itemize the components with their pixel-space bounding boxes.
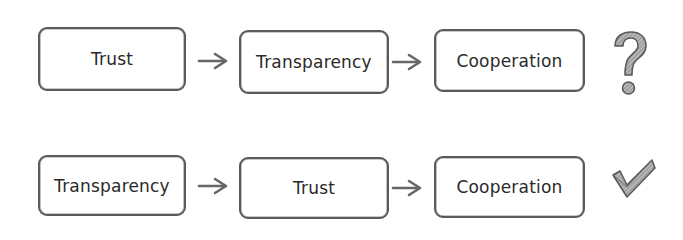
- node-label: Trust: [91, 49, 133, 69]
- node-label: Cooperation: [456, 177, 562, 197]
- node-label: Transparency: [256, 52, 372, 72]
- node-cooperation: Cooperation: [434, 29, 585, 92]
- arrow-right-icon: [391, 53, 423, 71]
- node-label: Trust: [293, 178, 335, 198]
- question-mark-icon: [610, 30, 650, 100]
- node-trust: Trust: [38, 27, 186, 91]
- arrow-right-icon: [391, 179, 423, 197]
- checkmark-icon: [610, 155, 658, 203]
- node-label: Transparency: [54, 176, 170, 196]
- node-label: Cooperation: [456, 51, 562, 71]
- node-cooperation: Cooperation: [434, 156, 585, 218]
- node-transparency: Transparency: [239, 30, 389, 94]
- node-transparency: Transparency: [38, 155, 186, 216]
- arrow-right-icon: [197, 177, 229, 195]
- node-trust: Trust: [239, 157, 389, 219]
- arrow-right-icon: [197, 52, 229, 70]
